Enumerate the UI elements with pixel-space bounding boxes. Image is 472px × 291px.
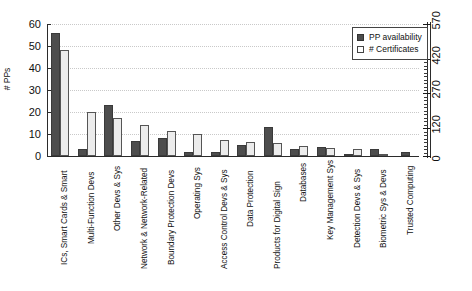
- bar-pp-availability: [317, 147, 326, 156]
- right-axis-minor-tick: [424, 90, 428, 91]
- y-tick-mark: [47, 46, 51, 47]
- bar-pp-availability: [78, 149, 87, 156]
- legend-item-pp-availability: PP availability: [357, 32, 422, 43]
- y-tick-label: 50: [15, 41, 41, 52]
- x-tick-label: Access Control Devs & Sys: [220, 169, 229, 269]
- x-label-slot: Databases: [286, 158, 313, 288]
- y-tick-label: 20: [15, 107, 41, 118]
- bar-pp-availability: [264, 127, 273, 156]
- bar-group: [233, 24, 260, 156]
- bar-certificates: [246, 142, 255, 156]
- legend-label: PP availability: [369, 33, 422, 42]
- legend-item-certificates: # Certificates: [357, 44, 422, 55]
- bar-certificates: [167, 131, 176, 156]
- x-label-slot: ICs, Smart Cards & Smart: [47, 158, 74, 288]
- bar-group: [313, 24, 340, 156]
- bar-certificates: [353, 149, 362, 156]
- right-axis-minor-tick: [424, 135, 428, 136]
- x-tick-label: Boundary Protection Devs: [167, 170, 176, 265]
- y2-tick-label: 0: [431, 155, 442, 161]
- bar-certificates: [140, 125, 149, 156]
- bar-certificates: [326, 148, 335, 156]
- bar-pp-availability: [290, 149, 299, 156]
- y-tick-label: 10: [15, 129, 41, 140]
- bar-pp-availability: [131, 141, 140, 156]
- x-label-slot: Other Devs & Sys: [100, 158, 127, 288]
- dark-square-icon: [357, 34, 364, 41]
- right-axis-minor-tick: [424, 114, 428, 115]
- x-axis-labels: ICs, Smart Cards & SmartMulti-Function D…: [47, 158, 419, 288]
- right-axis-minor-tick: [424, 104, 428, 105]
- left-axis-title: # PPs: [2, 68, 12, 91]
- y-tick-label: 30: [15, 85, 41, 96]
- y-tick-label: 60: [15, 19, 41, 30]
- bar-group: [100, 24, 127, 156]
- x-tick-label: Databases: [299, 163, 308, 202]
- left-axis-ticks: 0102030405060: [13, 24, 41, 156]
- right-axis-minor-tick: [424, 125, 428, 126]
- x-label-slot: Network & Network-Related: [127, 158, 154, 288]
- y-tick-mark: [47, 68, 51, 69]
- x-label-slot: Multi-Function Devs: [74, 158, 101, 288]
- right-axis-minor-tick: [424, 132, 428, 133]
- bar-group: [286, 24, 313, 156]
- right-axis-minor-tick: [424, 83, 428, 84]
- right-axis-minor-tick: [424, 100, 428, 101]
- right-axis-minor-tick: [424, 111, 428, 112]
- right-axis-minor-tick: [424, 146, 428, 147]
- x-tick-label: Biometric Sys & Devs: [379, 169, 388, 248]
- right-axis-minor-tick: [424, 73, 428, 74]
- y2-tick-label: 420: [431, 46, 442, 64]
- bar-certificates: [60, 50, 69, 156]
- bar-pp-availability: [104, 105, 113, 156]
- x-label-slot: Operating Sys: [180, 158, 207, 288]
- y-tick-label: 40: [15, 63, 41, 74]
- bar-pp-availability: [158, 138, 167, 156]
- bar-pp-availability: [237, 145, 246, 156]
- x-label-slot: Trusted Computing: [392, 158, 419, 288]
- bar-certificates: [273, 143, 282, 156]
- bar-group: [260, 24, 287, 156]
- x-tick-label: Detection Devs & Sys: [353, 169, 362, 248]
- x-label-slot: Products for Digital Sign: [260, 158, 287, 288]
- x-tick-label: Key Management Sys: [326, 159, 335, 239]
- right-axis-minor-tick: [424, 153, 428, 154]
- x-label-slot: Data Protection: [233, 158, 260, 288]
- bar-chart: 0102030405060 # PPs 0120270420570 PP ava…: [0, 0, 472, 291]
- y-tick-mark: [47, 112, 51, 113]
- y2-tick-label: 570: [431, 11, 442, 29]
- x-tick-label: Network & Network-Related: [140, 168, 149, 269]
- x-tick-label: ICs, Smart Cards & Smart: [60, 170, 69, 265]
- right-axis-minor-tick: [424, 87, 428, 88]
- y2-tick-label: 270: [431, 81, 442, 99]
- bar-certificates: [299, 146, 308, 156]
- y-tick-mark: [47, 156, 51, 157]
- right-axis-minor-tick: [424, 62, 428, 63]
- x-label-slot: Key Management Sys: [313, 158, 340, 288]
- bar-group: [180, 24, 207, 156]
- right-axis-minor-tick: [424, 66, 428, 67]
- right-axis-minor-tick: [424, 107, 428, 108]
- right-axis-minor-tick: [424, 149, 428, 150]
- bar-certificates: [87, 112, 96, 156]
- x-label-slot: Biometric Sys & Devs: [366, 158, 393, 288]
- right-axis-minor-tick: [424, 80, 428, 81]
- right-axis-minor-tick: [424, 76, 428, 77]
- bar-group: [153, 24, 180, 156]
- bar-certificates: [220, 140, 229, 157]
- bar-group: [74, 24, 101, 156]
- right-axis-minor-tick: [424, 97, 428, 98]
- y-tick-label: 0: [15, 151, 41, 162]
- y2-tick-label: 120: [431, 115, 442, 133]
- bar-pp-availability: [370, 149, 379, 156]
- y-tick-mark: [47, 134, 51, 135]
- x-tick-label: Other Devs & Sys: [113, 166, 122, 231]
- y-tick-mark: [47, 90, 51, 91]
- bar-certificates: [113, 118, 122, 157]
- x-tick-label: Trusted Computing: [406, 166, 415, 235]
- right-axis-minor-tick: [424, 118, 428, 119]
- x-tick-label: Data Protection: [246, 171, 255, 227]
- right-axis-minor-tick: [424, 139, 428, 140]
- bar-group: [206, 24, 233, 156]
- bottom-axis-line: [47, 156, 419, 157]
